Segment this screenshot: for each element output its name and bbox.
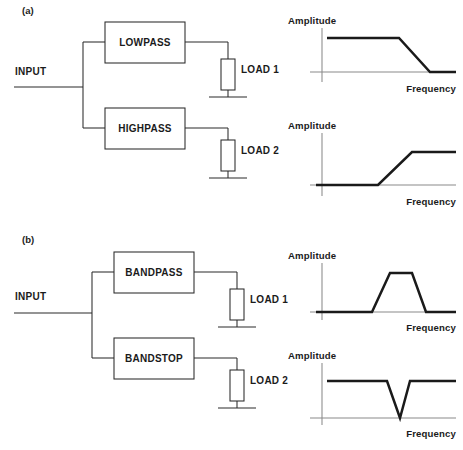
panel-b: (b) INPUT BANDPASS LOAD 1 BANDSTOP L [14, 234, 457, 439]
load2-resistor-a [221, 140, 235, 171]
panel-a: (a) INPUT LOWPASS LOAD 1 HIGHPASS [14, 5, 457, 207]
panel-b-input-label: INPUT [15, 291, 46, 302]
chart-bandstop-response: Amplitude Frequency [288, 350, 457, 439]
chart-highpass-ylabel: Amplitude [288, 120, 336, 131]
load1-resistor-a [221, 59, 235, 90]
panel-a-branch-lowpass: LOWPASS LOAD 1 [83, 22, 279, 97]
panel-a-label: (a) [22, 5, 34, 16]
chart-highpass-curve [316, 152, 456, 185]
highpass-block-label: HIGHPASS [118, 123, 172, 134]
load1-resistor-b [230, 289, 244, 320]
chart-bandpass-ylabel: Amplitude [288, 250, 336, 261]
chart-bandpass-xlabel: Frequency [406, 322, 456, 333]
chart-highpass-response: Amplitude Frequency [288, 120, 457, 207]
panel-b-label: (b) [22, 234, 34, 245]
load2-label-a: LOAD 2 [241, 145, 279, 156]
panel-a-branch-highpass: HIGHPASS LOAD 2 [83, 108, 279, 178]
load2-label-b: LOAD 2 [250, 375, 288, 386]
chart-bandstop-xlabel: Frequency [406, 428, 456, 439]
chart-bandstop-ylabel: Amplitude [288, 350, 336, 361]
load2-resistor-b [230, 370, 244, 401]
chart-highpass-xlabel: Frequency [406, 196, 456, 207]
chart-lowpass-curve [327, 38, 456, 72]
panel-b-branch-bandpass: BANDPASS LOAD 1 [92, 252, 288, 327]
load1-label-b: LOAD 1 [250, 294, 288, 305]
figure-canvas: (a) INPUT LOWPASS LOAD 1 HIGHPASS [0, 0, 463, 450]
load1-label-a: LOAD 1 [241, 64, 279, 75]
chart-lowpass-xlabel: Frequency [406, 83, 456, 94]
panel-b-branch-bandstop: BANDSTOP LOAD 2 [92, 338, 288, 408]
chart-lowpass-ylabel: Amplitude [288, 15, 336, 26]
chart-bandstop-curve [327, 381, 456, 418]
bandstop-block-label: BANDSTOP [125, 353, 183, 364]
lowpass-block-label: LOWPASS [119, 37, 171, 48]
bandpass-block-label: BANDPASS [125, 267, 182, 278]
chart-lowpass-response: Amplitude Frequency [288, 15, 457, 94]
panel-a-input-label: INPUT [15, 66, 46, 77]
chart-bandpass-curve [316, 273, 456, 312]
chart-bandpass-response: Amplitude Frequency [288, 250, 457, 333]
